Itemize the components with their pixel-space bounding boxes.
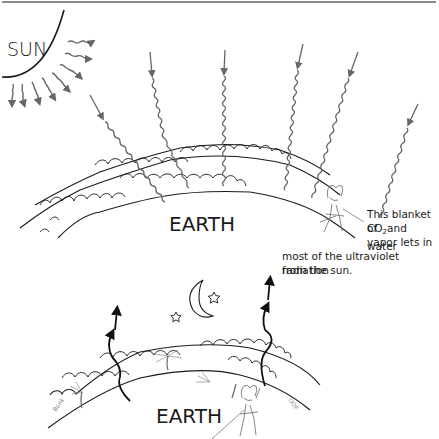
svg-text:Bonk: Bonk [51,396,66,413]
caption-line-3: vapor lets in [367,235,432,249]
outgoing-heat-arrows [109,280,272,401]
earth-label-top: EARTH [169,212,235,236]
svg-text:OOF: OOF [287,397,300,412]
moon-icon [190,280,213,317]
star-icon [171,312,181,322]
sun-label: SUN [7,38,47,60]
caption-line-5: from the sun. [282,263,352,277]
star-icon [208,292,220,303]
upper-devil-figure [320,185,364,232]
earth-label-bottom: EARTH [156,404,222,428]
caption-co: CO [367,222,383,234]
incoming-radiation-rays [90,44,418,218]
